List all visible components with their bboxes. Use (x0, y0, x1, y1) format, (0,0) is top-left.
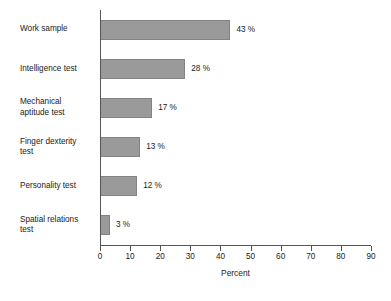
category-label: Mechanical aptitude test (20, 97, 98, 118)
x-axis-tick (371, 246, 372, 251)
bar (101, 59, 185, 79)
bar (101, 98, 152, 118)
x-axis-tick-label: 70 (300, 252, 322, 262)
bar (101, 215, 110, 235)
bar-value-label: 28 % (191, 64, 210, 74)
x-axis-tick (251, 246, 252, 251)
bar-value-label: 13 % (146, 142, 165, 152)
category-axis-labels: Work sampleIntelligence testMechanical a… (0, 0, 100, 241)
bar-value-label: 3 % (116, 220, 130, 230)
bar (101, 20, 230, 40)
bar (101, 176, 137, 196)
y-axis-line (100, 10, 101, 245)
x-axis-line (100, 245, 371, 246)
bar-value-label: 43 % (236, 25, 255, 35)
x-axis-tick (100, 246, 101, 251)
x-axis-tick (341, 246, 342, 251)
x-axis-tick (130, 246, 131, 251)
category-label: Spatial relations test (20, 215, 98, 236)
bar-value-label: 12 % (143, 181, 162, 191)
x-axis-tick-label: 0 (89, 252, 111, 262)
x-axis-tick (190, 246, 191, 251)
x-axis-tick (311, 246, 312, 251)
x-axis-tick-label: 10 (119, 252, 141, 262)
x-axis-tick-label: 90 (360, 252, 382, 262)
bar (101, 137, 140, 157)
x-axis-tick (281, 246, 282, 251)
horizontal-bar-chart: Work sampleIntelligence testMechanical a… (0, 0, 391, 301)
x-axis-tick-label: 80 (330, 252, 352, 262)
x-axis-tick-label: 50 (240, 252, 262, 262)
category-label: Personality test (20, 181, 98, 192)
x-axis-tick (220, 246, 221, 251)
x-axis-tick-label: 40 (209, 252, 231, 262)
x-axis-tick-label: 20 (149, 252, 171, 262)
category-label: Work sample (20, 24, 98, 35)
category-label: Intelligence test (20, 64, 98, 75)
category-label: Finger dexterity test (20, 137, 98, 158)
plot-area: 43 %28 %17 %13 %12 %3 % (100, 10, 371, 245)
x-axis-tick (160, 246, 161, 251)
x-axis-tick-label: 60 (270, 252, 292, 262)
x-axis-tick-label: 30 (179, 252, 201, 262)
bar-value-label: 17 % (158, 103, 177, 113)
x-axis-title: Percent (100, 268, 371, 279)
